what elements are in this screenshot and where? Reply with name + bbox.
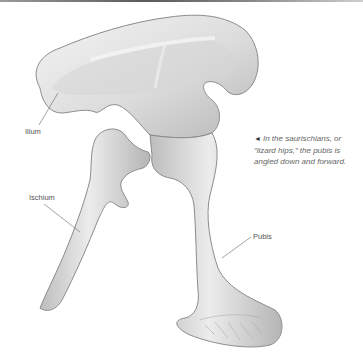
figure-canvas: Ilium Ischium Pubis ◄In the saurischians… (0, 0, 363, 361)
label-pubis: Pubis (253, 232, 272, 241)
figure-caption: ◄In the saurischians, or “lizard hips,” … (254, 133, 359, 168)
label-ilium: Ilium (25, 127, 41, 136)
hip-bones-illustration (0, 0, 363, 361)
ilium-bone (36, 15, 258, 138)
pointer-left-icon: ◄ (254, 135, 261, 142)
caption-text: In the saurischians, or “lizard hips,” t… (254, 134, 346, 166)
ischium-leader-line (44, 204, 80, 232)
ischium-bone (40, 129, 150, 310)
label-ischium: Ischium (29, 193, 55, 202)
pubis-leader-line (222, 237, 251, 258)
